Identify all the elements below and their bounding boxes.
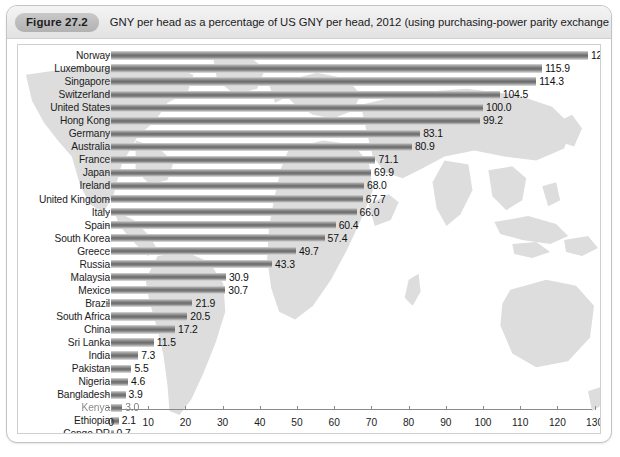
x-axis-tick <box>409 406 410 410</box>
bar-row: Germany83.1 <box>18 127 600 140</box>
chart-body: Norway128.2Luxembourg115.9Singapore114.3… <box>18 45 600 433</box>
bar <box>111 156 375 164</box>
bar <box>111 325 175 333</box>
x-axis-tick <box>297 406 298 410</box>
bar-category-label: Switzerland <box>58 88 110 101</box>
bar-row: India7.3 <box>18 349 600 362</box>
y-axis-tick <box>106 199 110 200</box>
y-axis-tick <box>106 238 110 239</box>
bar <box>111 117 480 125</box>
bar-category-label: United States <box>50 101 110 114</box>
bar-category-label: Norway <box>76 49 110 62</box>
bar-value-label: 60.4 <box>339 219 359 232</box>
bar-value-label: 67.7 <box>366 193 386 206</box>
x-axis-tick-label: 50 <box>291 417 302 428</box>
y-axis-tick <box>106 133 110 134</box>
bar <box>111 221 336 229</box>
bar-category-label: Pakistan <box>72 362 110 375</box>
x-axis-tick <box>446 406 447 410</box>
x-axis-tick-label: 110 <box>512 417 528 428</box>
bar-row: Brazil21.9 <box>18 297 600 310</box>
y-axis-tick <box>106 81 110 82</box>
bar <box>111 234 325 242</box>
bar-row: Russia43.3 <box>18 258 600 271</box>
y-axis-tick <box>106 329 110 330</box>
bar-row: Australia80.9 <box>18 140 600 153</box>
bar-category-label: United Kingdom <box>39 193 110 206</box>
x-axis-tick <box>483 406 484 410</box>
y-axis-tick <box>106 264 110 265</box>
bar-category-label: Sri Lanka <box>68 336 110 349</box>
x-axis-tick-label: 10 <box>143 417 154 428</box>
bar-value-label: 99.2 <box>483 114 503 127</box>
x-axis-tick <box>223 406 224 410</box>
bar-row: Italy66.0 <box>18 206 600 219</box>
bar-value-label: 30.7 <box>228 284 248 297</box>
bar <box>111 247 296 255</box>
x-axis-tick-label: 40 <box>254 417 265 428</box>
y-axis-tick <box>106 433 110 434</box>
y-axis-tick <box>106 277 110 278</box>
y-axis-tick <box>106 355 110 356</box>
bar <box>111 338 154 346</box>
bar-row: Japan69.9 <box>18 166 600 179</box>
bar-value-label: 30.9 <box>229 271 249 284</box>
bar-row: China17.2 <box>18 323 600 336</box>
x-axis-tick <box>185 406 186 410</box>
y-axis-tick <box>106 120 110 121</box>
y-axis-tick <box>106 407 110 408</box>
y-axis-tick <box>106 55 110 56</box>
bar-row: Singapore114.3 <box>18 75 600 88</box>
bar <box>111 169 371 177</box>
x-axis-tick <box>111 406 112 410</box>
bar <box>111 365 131 373</box>
x-axis-tick <box>371 406 372 410</box>
bar <box>111 195 363 203</box>
bar-value-label: 71.1 <box>378 153 398 166</box>
bar-category-label: Malaysia <box>71 271 110 284</box>
bar-value-label: 17.2 <box>178 323 198 336</box>
bar-value-label: 68.0 <box>367 179 387 192</box>
bar <box>111 378 128 386</box>
bar-value-label: 83.1 <box>423 127 443 140</box>
bar-category-label: Bangladesh <box>57 388 110 401</box>
y-axis-tick <box>106 146 110 147</box>
x-axis-tick-label: 70 <box>366 417 377 428</box>
bar-row: United Kingdom67.7 <box>18 193 600 206</box>
bar-value-label: 4.6 <box>131 375 145 388</box>
bar-row: Spain60.4 <box>18 219 600 232</box>
y-axis-tick <box>106 94 110 95</box>
y-axis-tick <box>106 172 110 173</box>
bar-row: South Africa20.5 <box>18 310 600 323</box>
bar-category-label: Germany <box>69 127 110 140</box>
y-axis-tick <box>106 225 110 226</box>
bar <box>111 286 225 294</box>
bar <box>111 51 588 59</box>
figure-card: Figure 27.2 GNY per head as a percentage… <box>6 5 612 443</box>
chart-plot-area: Norway128.2Luxembourg115.9Singapore114.3… <box>17 44 601 434</box>
bar-category-label: South Africa <box>56 310 110 323</box>
bar-row: Mexico30.7 <box>18 284 600 297</box>
y-axis-tick <box>106 368 110 369</box>
bar-value-label: 114.3 <box>539 75 564 88</box>
bar-row: Greece49.7 <box>18 245 600 258</box>
bar <box>111 77 536 85</box>
bar-row: Pakistan5.5 <box>18 362 600 375</box>
bar-value-label: 115.9 <box>545 62 570 75</box>
x-axis: 0102030405060708090100110120130 <box>18 410 600 433</box>
bar-value-label: 21.9 <box>195 297 215 310</box>
bar-value-label: 104.5 <box>503 88 529 101</box>
bar-row: Luxembourg115.9 <box>18 62 600 75</box>
bar <box>111 299 192 307</box>
bar-value-label: 3.9 <box>129 388 143 401</box>
x-axis-tick-label: 30 <box>217 417 228 428</box>
figure-header: Figure 27.2 GNY per head as a percentage… <box>7 6 611 39</box>
bar-value-label: 20.5 <box>190 310 210 323</box>
bar <box>111 182 364 190</box>
y-axis-tick <box>106 107 110 108</box>
bar <box>111 391 126 399</box>
y-axis-tick <box>106 342 110 343</box>
figure-title: GNY per head as a percentage of US GNY p… <box>110 16 611 28</box>
bar <box>111 260 272 268</box>
figure-number-badge: Figure 27.2 <box>15 13 99 32</box>
